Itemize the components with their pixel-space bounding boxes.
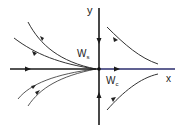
arrow-icon	[31, 85, 36, 89]
phase-portrait-diagram: y x Ws Wc	[0, 0, 189, 128]
arrow-icon	[97, 92, 102, 98]
arrow-icon	[97, 38, 102, 44]
wc-sub: c	[115, 81, 118, 87]
trajectory-left-lower-1	[18, 69, 96, 99]
origin-fixed-point	[97, 67, 101, 71]
trajectory-right-upper	[107, 27, 158, 64]
x-axis-label: x	[166, 73, 171, 84]
center-manifold-label: Wc	[106, 75, 118, 87]
y-axis-label: y	[87, 4, 93, 16]
arrow-icon	[113, 37, 118, 42]
arrow-icon	[25, 67, 31, 72]
ws-sub: s	[86, 54, 89, 60]
stable-manifold-label: Ws	[77, 48, 89, 60]
arrow-icon	[114, 67, 120, 72]
trajectory-left-lower-2	[28, 69, 96, 106]
